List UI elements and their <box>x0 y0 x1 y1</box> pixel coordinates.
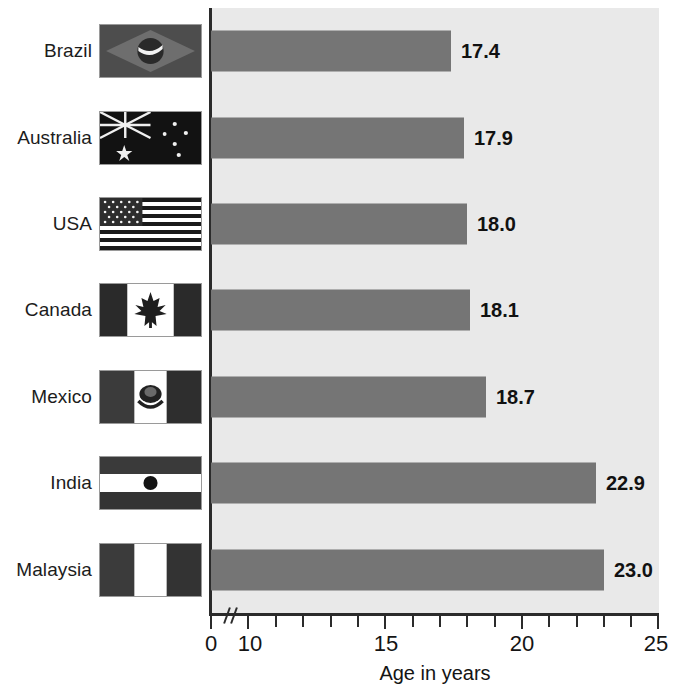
x-tick-label-15: 15 <box>374 631 398 657</box>
row-label-usa: USA <box>0 213 92 235</box>
x-tick-16 <box>412 616 414 627</box>
australia-flag <box>99 111 202 165</box>
row-label-mexico: Mexico <box>0 386 92 408</box>
x-tick-label-10: 10 <box>238 631 262 657</box>
mexico-flag <box>99 370 202 424</box>
bar-value-usa: 18.0 <box>477 212 516 235</box>
x-tick-17 <box>439 616 441 627</box>
bar-mexico <box>211 376 486 417</box>
chart-row-canada: Canada 18.1 <box>0 267 675 353</box>
row-label-brazil: Brazil <box>0 40 92 62</box>
bar-brazil <box>211 31 451 72</box>
chart-row-india: India 22.9 <box>0 440 675 526</box>
usa-flag <box>99 197 202 251</box>
chart-row-brazil: Brazil 17.4 <box>0 8 675 94</box>
x-tick-22 <box>576 616 578 627</box>
x-tick-21 <box>548 616 550 627</box>
chart-row-australia: Australia 17 <box>0 94 675 180</box>
bar-india <box>211 463 596 504</box>
bar-canada <box>211 290 470 331</box>
bar-value-malaysia: 23.0 <box>614 558 653 581</box>
chart-row-mexico: Mexico 18.7 <box>0 354 675 440</box>
x-tick-24 <box>630 616 632 627</box>
x-tick-19 <box>494 616 496 627</box>
x-axis-title: Age in years <box>211 662 659 685</box>
bar-value-mexico: 18.7 <box>496 385 535 408</box>
row-label-malaysia: Malaysia <box>0 559 92 581</box>
x-tick-11 <box>275 616 277 627</box>
x-tick-label-20: 20 <box>510 631 534 657</box>
row-label-canada: Canada <box>0 299 92 321</box>
malaysia-flag <box>99 543 202 597</box>
bar-value-canada: 18.1 <box>480 299 519 322</box>
india-flag <box>99 456 202 510</box>
x-tick-13 <box>330 616 332 627</box>
chart-row-usa: USA <box>0 181 675 267</box>
x-tick-18 <box>466 616 468 627</box>
bar-australia <box>211 117 464 158</box>
x-tick-15 <box>384 616 386 629</box>
x-tick-12 <box>302 616 304 627</box>
bar-value-brazil: 17.4 <box>461 40 500 63</box>
chart-row-malaysia: Malaysia 23.0 <box>0 526 675 612</box>
bar-chart: Brazil 17.4 Australia <box>0 0 675 692</box>
row-label-australia: Australia <box>0 127 92 149</box>
x-tick-20 <box>521 616 523 629</box>
x-tick-25 <box>657 616 659 629</box>
bar-value-india: 22.9 <box>606 472 645 495</box>
bar-value-australia: 17.9 <box>474 126 513 149</box>
bar-usa <box>211 203 467 244</box>
brazil-flag <box>99 24 202 78</box>
axis-break-marker <box>222 607 244 627</box>
canada-flag <box>99 283 202 337</box>
row-label-india: India <box>0 472 92 494</box>
x-tick-label-25: 25 <box>644 631 668 657</box>
bar-malaysia <box>211 549 604 590</box>
x-tick-0 <box>210 616 212 629</box>
x-tick-23 <box>603 616 605 627</box>
x-tick-14 <box>357 616 359 627</box>
x-tick-10 <box>247 616 249 629</box>
x-tick-label-0: 0 <box>205 631 217 657</box>
